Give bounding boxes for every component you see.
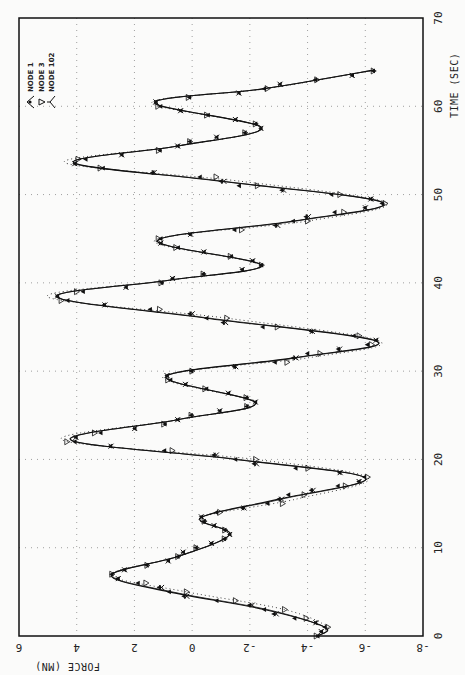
time-tick-label: 10: [432, 541, 445, 554]
legend-label-node-1: NODE 1: [27, 62, 35, 92]
force-time-chart: 010203040506070 6420-2-4-6-8 TIME (SEC) …: [0, 0, 465, 675]
marker-open-triangle-icon: [280, 501, 285, 507]
time-axis-ticks: 010203040506070: [432, 11, 445, 639]
marker-open-triangle-icon: [282, 607, 287, 613]
force-tick-label: -8: [416, 641, 429, 654]
force-tick-label: 4: [73, 641, 80, 654]
legend-item-node-1: NODE 1: [27, 62, 35, 108]
triangle-tick-icon: [47, 96, 55, 108]
time-tick-label: 0: [432, 633, 445, 640]
force-axis-title: FORCE (MN): [35, 661, 100, 672]
force-tick-label: 0: [189, 641, 196, 654]
series-layer: [47, 68, 388, 639]
force-tick-label: 6: [16, 641, 23, 654]
marker-filled-triangle-icon: [286, 492, 290, 497]
marker-filled-triangle-icon: [237, 183, 241, 188]
series-node-102: [55, 70, 384, 636]
series-node-3: [47, 68, 388, 639]
force-axis-ticks: 6420-2-4-6-8: [16, 641, 430, 654]
force-tick-label: -4: [301, 641, 315, 654]
time-axis-title: TIME (SEC): [449, 53, 460, 118]
legend-item-node-102: NODE 102: [47, 52, 56, 108]
open-triangle-icon: [39, 99, 45, 105]
time-tick-label: 70: [432, 11, 445, 24]
time-tick-label: 20: [432, 453, 445, 466]
time-tick-label: 60: [432, 100, 445, 113]
legend-label-node-102: NODE 102: [48, 52, 56, 92]
legend: NODE 1 NODE 3 NODE 102: [27, 52, 56, 108]
series-node-1: [55, 69, 384, 639]
time-tick-label: 40: [432, 276, 445, 289]
marker-filled-triangle-icon: [332, 210, 336, 215]
time-tick-label: 50: [432, 188, 445, 201]
grid-lines: [19, 18, 423, 636]
time-tick-label: 30: [432, 365, 445, 378]
marker-filled-triangle-icon: [305, 351, 309, 356]
marker-open-triangle-icon: [157, 306, 162, 312]
plot-frame: [19, 18, 423, 636]
force-tick-label: -2: [243, 641, 256, 654]
force-tick-label: -6: [359, 641, 372, 654]
legend-item-node-3: NODE 3: [38, 62, 46, 105]
force-tick-label: 2: [131, 641, 138, 654]
legend-label-node-3: NODE 3: [38, 62, 46, 92]
